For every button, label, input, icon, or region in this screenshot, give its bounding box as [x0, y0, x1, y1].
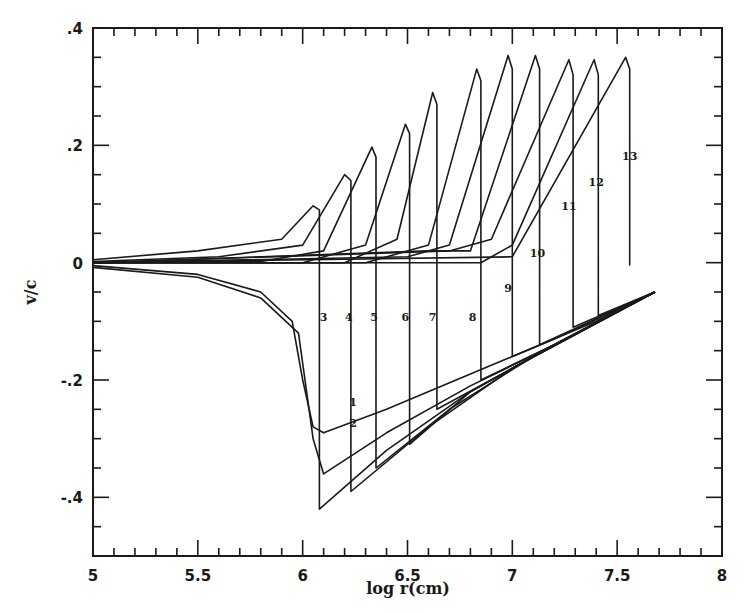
x-tick-label: 7.5	[604, 567, 631, 585]
y-axis-title: v/c	[21, 279, 40, 305]
curve-7	[93, 93, 655, 410]
curve-label: 9	[504, 282, 512, 295]
curve-6	[93, 124, 655, 444]
x-tick-label: 8	[717, 567, 727, 585]
curve-label: 12	[589, 176, 604, 189]
curve-label: 1	[349, 396, 357, 409]
y-tick-label: .2	[67, 137, 83, 155]
plot-frame	[93, 28, 722, 556]
curve-11	[93, 60, 655, 328]
curve-label: 6	[402, 311, 410, 324]
y-tick-label: -.4	[61, 489, 83, 507]
curve-label: 4	[345, 311, 353, 324]
tick-labels: 55.566.577.58.4.20-.2-.4	[61, 20, 728, 585]
y-tick-label: .4	[67, 20, 83, 38]
curve-label: 8	[469, 311, 477, 324]
curve-5	[93, 147, 655, 468]
curve-label: 7	[429, 311, 437, 324]
curve-label: 13	[622, 150, 637, 163]
chart-plot: 12345678910111213 55.566.577.58.4.20-.2-…	[0, 0, 746, 613]
curve-label: 5	[370, 311, 378, 324]
x-tick-label: 5	[88, 567, 98, 585]
y-tick-label: -.2	[61, 372, 83, 390]
curve-label: 11	[561, 200, 576, 213]
x-tick-label: 5.5	[185, 567, 212, 585]
curve-3	[93, 206, 655, 509]
x-tick-label: 7	[507, 567, 517, 585]
curve-1	[93, 266, 655, 433]
curve-8	[93, 69, 655, 380]
y-tick-label: 0	[73, 255, 83, 273]
x-tick-label: 6	[297, 567, 307, 585]
curve-12	[93, 60, 655, 316]
axis-ticks	[93, 28, 722, 556]
data-curves	[93, 56, 655, 510]
curve-label: 2	[349, 417, 357, 430]
curve-2	[93, 267, 655, 474]
curve-label: 10	[530, 247, 546, 260]
curve-label: 3	[320, 311, 328, 324]
x-axis-title: log r(cm)	[366, 579, 450, 598]
